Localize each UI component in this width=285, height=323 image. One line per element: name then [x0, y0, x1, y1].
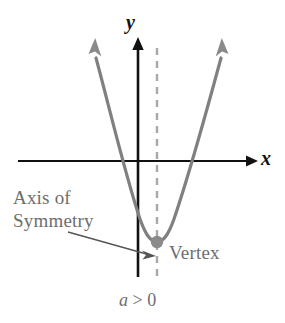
parabola-graphic [0, 0, 285, 323]
parabola-right-arrowhead-icon [216, 38, 229, 57]
axis-of-symmetry-leader-line [68, 232, 156, 260]
y-axis-arrowhead-icon [132, 37, 143, 50]
parabola-curve [96, 58, 221, 242]
coefficient-inequality: > 0 [128, 290, 156, 310]
y-axis [132, 37, 143, 277]
vertex-label: Vertex [169, 243, 220, 262]
parabola-figure: y x Axis of Symmetry Vertex a > 0 [0, 0, 285, 323]
y-axis-label: y [126, 12, 135, 32]
parabola-left-arrowhead-icon [89, 38, 102, 57]
coefficient-condition-label: a > 0 [119, 291, 156, 309]
axis-of-symmetry-label-line2: Symmetry [13, 211, 94, 230]
axis-of-symmetry-label-line1: Axis of [13, 188, 71, 207]
x-axis-arrowhead-icon [246, 156, 258, 167]
leader-arrowhead-icon [142, 251, 156, 260]
x-axis-label: x [261, 148, 271, 168]
coefficient-variable: a [119, 290, 128, 310]
vertex-point-marker [151, 236, 163, 248]
